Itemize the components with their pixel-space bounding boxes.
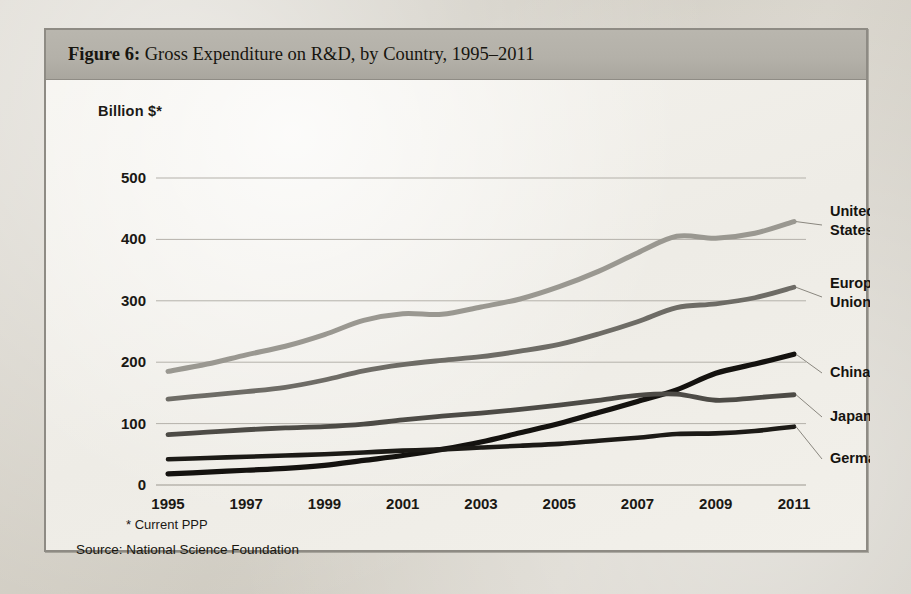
x-tick-2001: 2001 <box>386 495 419 512</box>
x-tick-1999: 1999 <box>308 495 341 512</box>
figure-title: Figure 6: Gross Expenditure on R&D, by C… <box>68 44 534 65</box>
legend-label-japan: Japan <box>830 408 870 424</box>
gridlines-group <box>156 178 806 485</box>
legend-leader-european-union <box>796 287 822 297</box>
footnote-current-ppp: * Current PPP <box>126 517 208 532</box>
y-tick-300: 300 <box>121 292 146 309</box>
legend-leader-japan <box>796 395 822 417</box>
x-tick-2011: 2011 <box>778 495 811 512</box>
y-tick-200: 200 <box>121 353 146 370</box>
x-tick-2005: 2005 <box>543 495 576 512</box>
legend-label-united-states: States <box>830 222 870 238</box>
line-chart: 0100200300400500 19951997199920012003200… <box>46 80 870 554</box>
legend-label-european-union: European <box>830 275 870 291</box>
x-tick-1995: 1995 <box>151 495 184 512</box>
y-tick-0: 0 <box>138 476 146 493</box>
figure-title-rest: Gross Expenditure on R&D, by Country, 19… <box>145 44 535 64</box>
x-axis-tick-labels: 199519971999200120032005200720092011 <box>151 495 810 512</box>
data-series-group <box>168 222 794 474</box>
legend-leader-china <box>796 354 822 373</box>
figure-container: Figure 6: Gross Expenditure on R&D, by C… <box>44 28 868 552</box>
figure-header-band: Figure 6: Gross Expenditure on R&D, by C… <box>46 30 866 80</box>
legend-label-china: China <box>830 364 870 380</box>
series-line-united-states <box>168 222 794 372</box>
legend-leader-germany <box>796 427 822 459</box>
legend-label-european-union: Union <box>830 294 870 310</box>
x-tick-2003: 2003 <box>464 495 497 512</box>
x-tick-2007: 2007 <box>621 495 654 512</box>
figure-title-lead: Figure 6: <box>68 44 140 64</box>
x-tick-1997: 1997 <box>230 495 263 512</box>
x-tick-2009: 2009 <box>699 495 732 512</box>
chart-legend: UnitedStatesEuropeanUnionChinaJapanGerma… <box>796 203 870 466</box>
y-tick-500: 500 <box>121 169 146 186</box>
y-tick-400: 400 <box>121 230 146 247</box>
y-axis-tick-labels: 0100200300400500 <box>121 169 146 493</box>
legend-label-united-states: United <box>830 203 870 219</box>
legend-label-germany: Germany <box>830 450 870 466</box>
series-line-japan <box>168 394 794 435</box>
y-tick-100: 100 <box>121 415 146 432</box>
legend-leader-united-states <box>796 222 822 225</box>
plot-area: Billion $* 0100200300400500 199519971999… <box>46 80 866 550</box>
source-caption: Source: National Science Foundation <box>76 542 299 557</box>
